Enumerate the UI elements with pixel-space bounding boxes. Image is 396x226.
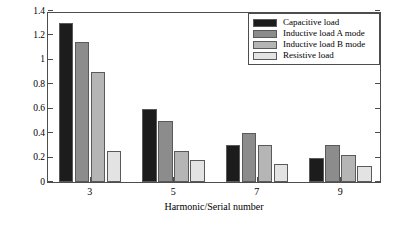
legend-swatch-icon	[253, 52, 277, 60]
bar	[59, 23, 74, 182]
x-tick-label: 9	[338, 186, 343, 197]
y-tick-mark	[48, 34, 53, 35]
bar	[75, 42, 90, 182]
x-axis-title: Harmonic/Serial number	[48, 201, 380, 212]
legend-swatch-icon	[253, 19, 277, 27]
y-tick-mark-right	[375, 132, 380, 133]
x-tick-label: 3	[87, 186, 92, 197]
y-tick-mark-right	[375, 10, 380, 11]
bar	[174, 151, 189, 182]
legend-label: Inductive load B mode	[283, 39, 365, 50]
legend-swatch-icon	[253, 30, 277, 38]
y-tick-mark	[48, 10, 53, 11]
bar	[274, 164, 289, 182]
bar	[341, 155, 356, 182]
y-tick-mark	[48, 59, 53, 60]
legend-item[interactable]: Inductive load A mode	[253, 28, 374, 39]
y-tick-mark	[48, 83, 53, 84]
bar	[357, 166, 372, 182]
y-tick-label: 0.6	[33, 104, 45, 114]
y-tick-label: 0.4	[33, 128, 45, 138]
bar	[309, 158, 324, 182]
y-tick-mark-right	[375, 108, 380, 109]
bar	[190, 160, 205, 182]
y-tick-mark	[48, 157, 53, 158]
y-tick-label: 0	[40, 177, 45, 187]
legend-label: Inductive load A mode	[283, 28, 365, 39]
y-tick-mark-right	[375, 181, 380, 182]
bar	[91, 72, 106, 182]
x-tick-label: 5	[171, 186, 176, 197]
x-tick-label: 7	[254, 186, 259, 197]
bar	[258, 145, 273, 182]
legend-item[interactable]: Resistive load	[253, 50, 374, 61]
legend-item[interactable]: Capacitive load	[253, 17, 374, 28]
y-tick-label: 1	[40, 55, 45, 65]
y-tick-mark-right	[375, 83, 380, 84]
y-tick-mark	[48, 132, 53, 133]
legend-label: Capacitive load	[283, 17, 339, 28]
legend-item[interactable]: Inductive load B mode	[253, 39, 374, 50]
legend-label: Resistive load	[283, 50, 334, 61]
chart-figure: Harmonic/A 00.20.40.60.811.21.4 3579 Har…	[0, 0, 396, 226]
y-tick-mark	[48, 181, 53, 182]
y-tick-mark-right	[375, 157, 380, 158]
bar	[242, 133, 257, 182]
y-tick-mark	[48, 108, 53, 109]
bar	[107, 151, 122, 182]
y-tick-label: 0.8	[33, 80, 45, 90]
y-tick-label: 1.4	[33, 6, 45, 16]
legend-swatch-icon	[253, 41, 277, 49]
bar	[142, 109, 157, 182]
chart-legend: Capacitive loadInductive load A modeIndu…	[248, 13, 380, 65]
bar	[158, 121, 173, 182]
bar	[226, 145, 241, 182]
y-tick-label: 1.2	[33, 31, 45, 41]
plot-area: Harmonic/A 00.20.40.60.811.21.4 3579 Har…	[47, 12, 381, 183]
y-tick-label: 0.2	[33, 153, 45, 163]
bar	[325, 145, 340, 182]
